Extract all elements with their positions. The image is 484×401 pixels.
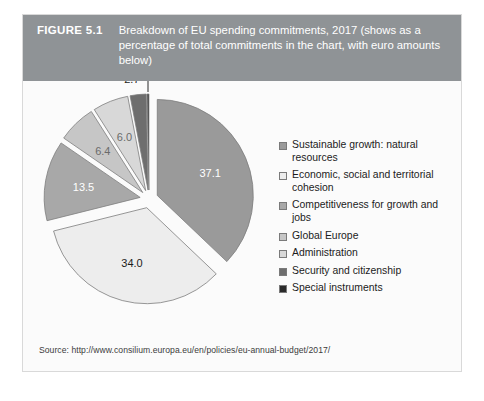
pie-slice-value-label: 6.0 <box>117 131 132 143</box>
pie-callout-lines <box>148 81 173 92</box>
pie-slice-value-label: 6.4 <box>95 145 110 157</box>
legend-label: Global Europe <box>292 230 358 243</box>
legend-swatch-administration <box>279 250 287 258</box>
pie-slice-value-label: 37.1 <box>199 167 220 179</box>
pie-slices <box>44 94 253 304</box>
legend-item[interactable]: Global Europe <box>279 230 459 243</box>
source-line: Source: http://www.consilium.europa.eu/e… <box>39 345 330 355</box>
pie-slice-value-label: 2.7 <box>124 81 139 85</box>
pie-slice-value-label: 34.0 <box>121 257 142 269</box>
figure-header: FIGURE 5.1 Breakdown of EU spending comm… <box>23 15 461 81</box>
legend-item[interactable]: Security and citizenship <box>279 265 459 278</box>
pie-slice-value-label: 13.5 <box>73 181 94 193</box>
legend-label: Security and citizenship <box>292 265 401 278</box>
legend-label: Economic, social and territorial cohesio… <box>292 169 459 194</box>
legend-label: Special instruments <box>292 282 383 295</box>
legend-swatch-special-instruments <box>279 285 287 293</box>
pie-chart: 37.134.013.56.46.02.70.3 <box>27 81 285 329</box>
figure-number: FIGURE 5.1 <box>37 23 103 36</box>
legend-swatch-economic-social-cohesion <box>279 172 287 180</box>
legend-item[interactable]: Sustainable growth: natural resources <box>279 139 459 164</box>
figure-card: FIGURE 5.1 Breakdown of EU spending comm… <box>22 14 462 372</box>
legend-swatch-sustainable-growth <box>279 142 287 150</box>
chart-area: 37.134.013.56.46.02.70.3 Sustainable gro… <box>23 81 461 329</box>
figure-caption: Breakdown of EU spending commitments, 20… <box>119 23 447 69</box>
legend-swatch-global-europe <box>279 233 287 241</box>
legend-item[interactable]: Competitiveness for growth and jobs <box>279 199 459 224</box>
pie-callout-line <box>148 81 173 92</box>
legend-label: Administration <box>292 247 358 260</box>
legend-swatch-competitiveness <box>279 202 287 210</box>
legend-swatch-security-citizenship <box>279 268 287 276</box>
legend-label: Competitiveness for growth and jobs <box>292 199 459 224</box>
legend-label: Sustainable growth: natural resources <box>292 139 459 164</box>
chart-legend: Sustainable growth: natural resources Ec… <box>279 139 459 300</box>
legend-item[interactable]: Special instruments <box>279 282 459 295</box>
legend-item[interactable]: Economic, social and territorial cohesio… <box>279 169 459 194</box>
legend-item[interactable]: Administration <box>279 247 459 260</box>
pie-chart-svg: 37.134.013.56.46.02.70.3 <box>27 81 285 329</box>
